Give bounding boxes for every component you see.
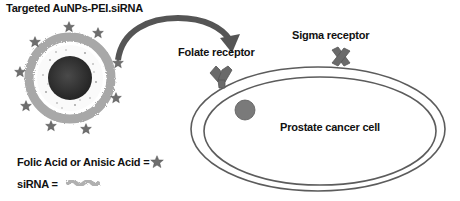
- legend-ligand-label: Folic Acid or Anisic Acid =: [17, 156, 149, 168]
- nanoparticle: [15, 22, 124, 134]
- legend-sirna-icon: [68, 181, 98, 185]
- sigma-receptor-label: Sigma receptor: [292, 29, 369, 41]
- nucleus: [235, 100, 255, 120]
- diagram-graphics: [0, 0, 460, 201]
- folate-receptor-label: Folate receptor: [178, 46, 254, 58]
- cell-label: Prostate cancer cell: [280, 121, 380, 133]
- diagram-title: Targeted AuNPs-PEI.siRNA: [6, 2, 143, 14]
- sigma-receptor-icon: [332, 47, 350, 66]
- diagram-canvas: Targeted AuNPs-PEI.siRNA Folate receptor…: [0, 0, 460, 201]
- legend-star-icon: [151, 156, 164, 168]
- gold-core: [48, 56, 92, 100]
- legend-sirna-label: siRNA =: [17, 178, 58, 190]
